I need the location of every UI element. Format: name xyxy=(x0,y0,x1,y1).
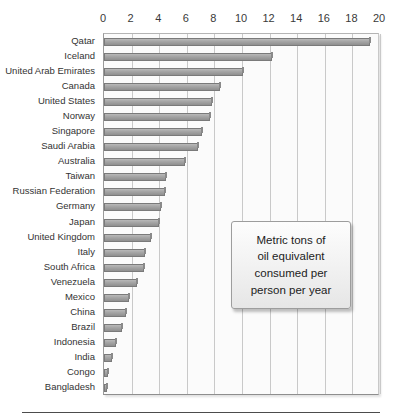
bar-russian-federation xyxy=(104,188,165,196)
category-label-australia: Australia xyxy=(58,156,95,166)
y-axis-category-labels: QatarIcelandUnited Arab EmiratesCanadaUn… xyxy=(0,33,99,395)
bar-taiwan xyxy=(104,173,166,181)
x-tick-label-18: 18 xyxy=(345,12,357,24)
category-label-canada: Canada xyxy=(62,81,95,91)
x-tick-label-0: 0 xyxy=(100,12,106,24)
category-label-qatar: Qatar xyxy=(71,36,95,46)
bar-congo xyxy=(104,369,108,377)
bar-mexico xyxy=(104,294,129,302)
category-label-norway: Norway xyxy=(63,111,95,121)
bar-south-africa xyxy=(104,264,144,272)
gridline-20 xyxy=(380,34,381,394)
bars-layer xyxy=(104,34,378,394)
annotation-line-3: consumed per xyxy=(255,267,328,279)
bar-row xyxy=(104,336,378,351)
category-label-united-kingdom: United Kingdom xyxy=(27,232,95,242)
bar-united-kingdom xyxy=(104,234,151,242)
bar-bangladesh xyxy=(104,384,107,392)
category-label-mexico: Mexico xyxy=(65,292,95,302)
annotation-line-4: person per year xyxy=(251,284,332,296)
bar-row xyxy=(104,200,378,215)
category-label-saudi-arabia: Saudi Arabia xyxy=(41,141,95,151)
bar-chart: 02468101214161820 QatarIcelandUnited Ara… xyxy=(0,0,398,420)
bar-australia xyxy=(104,158,185,166)
category-label-india: India xyxy=(74,352,95,362)
bar-canada xyxy=(104,83,220,91)
category-label-united-states: United States xyxy=(38,96,95,106)
category-label-indonesia: Indonesia xyxy=(54,337,95,347)
category-label-united-arab-emirates: United Arab Emirates xyxy=(5,66,95,76)
bar-row xyxy=(104,125,378,140)
category-label-congo: Congo xyxy=(67,367,95,377)
bar-row xyxy=(104,155,378,170)
bar-row xyxy=(104,34,378,49)
bar-japan xyxy=(104,219,159,227)
category-label-russian-federation: Russian Federation xyxy=(13,186,95,196)
bar-iceland xyxy=(104,53,272,61)
x-tick-label-12: 12 xyxy=(262,12,274,24)
bar-indonesia xyxy=(104,339,116,347)
bar-row xyxy=(104,140,378,155)
x-tick-label-20: 20 xyxy=(373,12,385,24)
x-tick-label-10: 10 xyxy=(235,12,247,24)
x-tick-label-16: 16 xyxy=(318,12,330,24)
x-tick-label-2: 2 xyxy=(128,12,134,24)
category-label-germany: Germany xyxy=(56,201,95,211)
x-tick-label-8: 8 xyxy=(210,12,216,24)
annotation-callout: Metric tons of oil equivalent consumed p… xyxy=(231,221,351,309)
x-tick-label-6: 6 xyxy=(183,12,189,24)
bar-row xyxy=(104,351,378,366)
category-label-japan: Japan xyxy=(69,217,95,227)
category-label-italy: Italy xyxy=(78,247,95,257)
annotation-text: Metric tons of oil equivalent consumed p… xyxy=(247,232,336,299)
bar-row xyxy=(104,321,378,336)
bar-row xyxy=(104,170,378,185)
bar-singapore xyxy=(104,128,202,136)
bar-brazil xyxy=(104,324,122,332)
annotation-line-1: Metric tons of xyxy=(256,234,325,246)
bar-germany xyxy=(104,203,161,211)
bar-venezuela xyxy=(104,279,137,287)
category-label-south-africa: South Africa xyxy=(44,262,95,272)
bar-row xyxy=(104,185,378,200)
bar-row xyxy=(104,49,378,64)
bar-qatar xyxy=(104,38,370,46)
x-axis-tick-labels: 02468101214161820 xyxy=(103,12,379,28)
x-tick-label-14: 14 xyxy=(290,12,302,24)
category-label-taiwan: Taiwan xyxy=(65,171,95,181)
category-label-china: China xyxy=(70,307,95,317)
bar-saudi-arabia xyxy=(104,143,198,151)
plot-area xyxy=(103,33,379,395)
bar-row xyxy=(104,109,378,124)
x-tick-label-4: 4 xyxy=(155,12,161,24)
bar-china xyxy=(104,309,126,317)
bar-row xyxy=(104,79,378,94)
bar-italy xyxy=(104,249,145,257)
category-label-venezuela: Venezuela xyxy=(51,277,95,287)
bar-united-states xyxy=(104,98,212,106)
bottom-divider xyxy=(22,412,380,413)
bar-united-arab-emirates xyxy=(104,68,243,76)
category-label-singapore: Singapore xyxy=(52,126,95,136)
bar-norway xyxy=(104,113,210,121)
category-label-iceland: Iceland xyxy=(64,51,95,61)
bar-row xyxy=(104,94,378,109)
bar-india xyxy=(104,354,112,362)
bar-row xyxy=(104,64,378,79)
category-label-bangladesh: Bangladesh xyxy=(45,382,95,392)
annotation-line-2: oil equivalent xyxy=(257,250,324,262)
category-label-brazil: Brazil xyxy=(71,322,95,332)
bar-row xyxy=(104,366,378,381)
bar-row xyxy=(104,381,378,396)
